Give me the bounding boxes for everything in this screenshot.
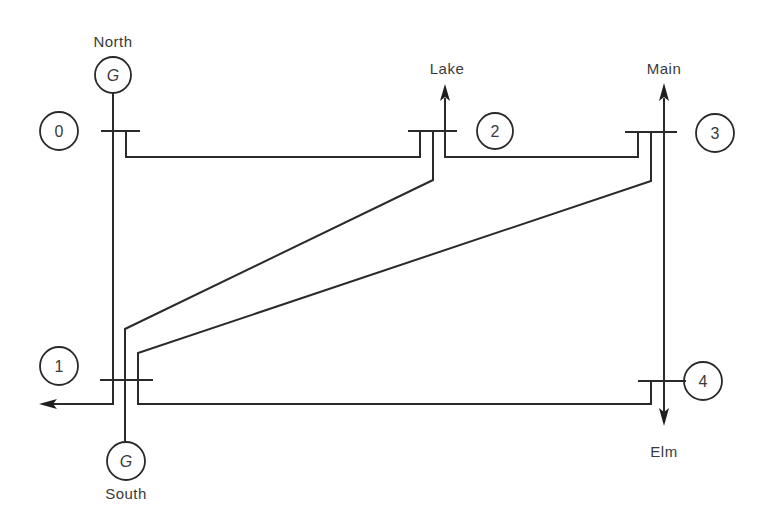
line-0-2 [126, 131, 420, 157]
bus-0-badge: 0 [40, 112, 78, 150]
load-main-label: Main [647, 60, 682, 77]
bus-2-badge: 2 [477, 113, 513, 149]
line-2-3 [445, 131, 638, 157]
bus-2-number: 2 [491, 123, 500, 140]
line-1-3 [138, 132, 651, 380]
load-lake-label: Lake [430, 60, 465, 77]
generator-north: North G [93, 33, 132, 93]
line-1-4 [138, 380, 651, 404]
generator-south: G South [105, 442, 147, 502]
generator-north-label: North [93, 33, 132, 50]
line-1-2 [125, 131, 433, 442]
generator-north-symbol: G [107, 67, 119, 84]
power-system-diagram: North G G South 0 1 2 3 4 [0, 0, 770, 529]
bus-1-badge: 1 [40, 347, 78, 385]
load-elm: Elm [650, 408, 677, 460]
generator-south-symbol: G [120, 453, 132, 470]
bus-1-number: 1 [55, 358, 64, 375]
bus-0-number: 0 [55, 123, 64, 140]
bus-4-badge: 4 [684, 362, 722, 400]
bus-3-badge: 3 [696, 114, 734, 152]
bus-3-number: 3 [711, 125, 720, 142]
generator-south-label: South [105, 485, 147, 502]
bus-4-number: 4 [699, 373, 708, 390]
load-elm-label: Elm [650, 443, 677, 460]
load-main: Main [647, 60, 682, 101]
load-lake: Lake [430, 60, 465, 131]
